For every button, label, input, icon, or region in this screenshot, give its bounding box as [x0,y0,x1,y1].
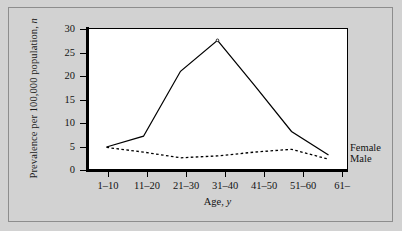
x-tick-6 [303,171,304,177]
y-tick-label-15: 15 [35,95,75,106]
line-chart: Prevalence per 100,000 population, n 0 5… [0,0,402,231]
y-tick-label-5: 5 [35,142,75,153]
y-tick-label-10: 10 [35,118,75,129]
x-tick-2 [147,171,148,177]
y-tick-label-0: 0 [35,165,75,176]
series-line-male [107,147,329,159]
y-tick-15 [80,100,86,101]
y-tick-0 [80,170,86,171]
plot-box-right-edge [347,28,348,170]
legend-label-male: Male [350,154,372,165]
y-tick-10 [80,123,86,124]
x-axis-line [86,169,348,172]
plot-box-top-edge [88,28,348,29]
x-tick-3 [186,171,187,177]
legend-label-female: Female [350,143,381,154]
y-axis-line [86,27,89,172]
y-tick-30 [80,29,86,30]
y-tick-label-25: 25 [35,48,75,59]
x-axis-title-text: Age, [204,196,227,207]
x-axis-title-symbol: y [227,196,232,207]
y-tick-label-30: 30 [35,24,75,35]
y-tick-20 [80,76,86,77]
x-tick-7 [342,171,343,177]
y-tick-label-20: 20 [35,71,75,82]
x-tick-4 [225,171,226,177]
x-tick-label-7: 61– [314,181,370,192]
series-line-female [107,40,329,155]
y-axis-title-symbol: n [28,18,39,23]
x-tick-5 [264,171,265,177]
y-tick-5 [80,147,86,148]
y-tick-25 [80,53,86,54]
x-tick-1 [108,171,109,177]
plot-area [88,29,347,170]
series-canvas [88,29,347,170]
peak-marker-female [216,39,219,42]
x-axis-title: Age, y [88,196,347,207]
